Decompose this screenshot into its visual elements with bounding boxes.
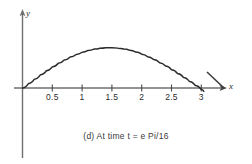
x-axis-arrow-stroke <box>207 72 225 89</box>
figure-caption: (d) At time t = e Pi/16 <box>0 131 252 141</box>
x-tick-label-0: 0.5 <box>46 92 59 102</box>
x-tick-label-1: 1 <box>80 92 85 102</box>
x-tick-label-4: 2.5 <box>165 92 178 102</box>
figure-panel: 0.5 1 1.5 2 2.5 3 y x (d) At time t = e … <box>0 0 252 164</box>
x-axis-label: x <box>229 81 233 91</box>
y-axis-label: y <box>26 8 30 18</box>
x-tick-label-3: 2 <box>139 92 144 102</box>
data-curve <box>23 48 204 92</box>
x-tick-label-2: 1.5 <box>106 92 119 102</box>
x-tick-label-5: 3 <box>199 92 204 102</box>
